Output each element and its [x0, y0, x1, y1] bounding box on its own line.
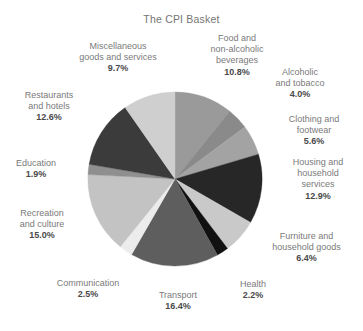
pie-label-furniture-line2: household goods [254, 242, 359, 253]
pie-label-miscellaneous: Miscellaneous goods and services 9.7% [63, 41, 173, 75]
pie-value-miscellaneous: 9.7% [63, 63, 173, 74]
pie-label-recreation-line2: and culture [2, 219, 82, 230]
pie-label-housing-line2: household [276, 168, 360, 179]
pie-label-health: Health 2.2% [229, 279, 277, 301]
pie-slice-group [88, 92, 262, 266]
pie-label-education-line1: Education [2, 158, 70, 169]
pie-label-transport: Transport 16.4% [139, 290, 217, 312]
pie-chart-figure: The CPI Basket Food and non-alcoholic be… [0, 0, 363, 331]
pie-label-restaurants-line2: and hotels [12, 101, 86, 112]
pie-label-alcoholic-line1: Alcoholic [254, 67, 346, 78]
pie-label-recreation-line1: Recreation [2, 208, 82, 219]
pie-label-furniture: Furniture and household goods 6.4% [254, 231, 359, 265]
pie-label-health-line1: Health [229, 279, 277, 290]
pie-value-restaurants: 12.6% [12, 112, 86, 123]
pie-label-miscellaneous-line2: goods and services [63, 52, 173, 63]
pie-label-clothing-line2: footwear [272, 125, 356, 136]
pie-label-furniture-line1: Furniture and [254, 231, 359, 242]
pie-value-communication: 2.5% [43, 289, 133, 300]
pie-label-recreation: Recreation and culture 15.0% [2, 208, 82, 242]
pie-label-housing-line1: Housing and [276, 157, 360, 168]
pie-label-food-line3: beverages [193, 55, 281, 66]
pie-value-alcoholic: 4.0% [254, 89, 346, 100]
pie-value-recreation: 15.0% [2, 230, 82, 241]
pie-label-housing-line3: services [276, 179, 360, 190]
pie-label-transport-line1: Transport [139, 290, 217, 301]
pie-label-alcoholic-line2: and tobacco [254, 78, 346, 89]
pie-value-housing: 12.9% [276, 191, 360, 202]
pie-label-housing: Housing and household services 12.9% [276, 157, 360, 202]
pie-value-health: 2.2% [229, 290, 277, 301]
pie-label-food-line1: Food and [193, 33, 281, 44]
pie-chart-graphic [87, 91, 263, 267]
pie-label-miscellaneous-line1: Miscellaneous [63, 41, 173, 52]
chart-title: The CPI Basket [0, 13, 363, 25]
pie-label-restaurants: Restaurants and hotels 12.6% [12, 90, 86, 124]
pie-value-education: 1.9% [2, 169, 70, 180]
pie-label-food-line2: non-alcoholic [193, 44, 281, 55]
pie-label-restaurants-line1: Restaurants [12, 90, 86, 101]
pie-label-education: Education 1.9% [2, 158, 70, 180]
pie-label-communication: Communication 2.5% [43, 278, 133, 300]
pie-label-clothing-line1: Clothing and [272, 114, 356, 125]
pie-label-alcoholic: Alcoholic and tobacco 4.0% [254, 67, 346, 101]
pie-value-clothing: 5.6% [272, 136, 356, 147]
pie-value-furniture: 6.4% [254, 253, 359, 264]
pie-value-transport: 16.4% [139, 301, 217, 312]
pie-label-communication-line1: Communication [43, 278, 133, 289]
pie-label-clothing: Clothing and footwear 5.6% [272, 114, 356, 148]
